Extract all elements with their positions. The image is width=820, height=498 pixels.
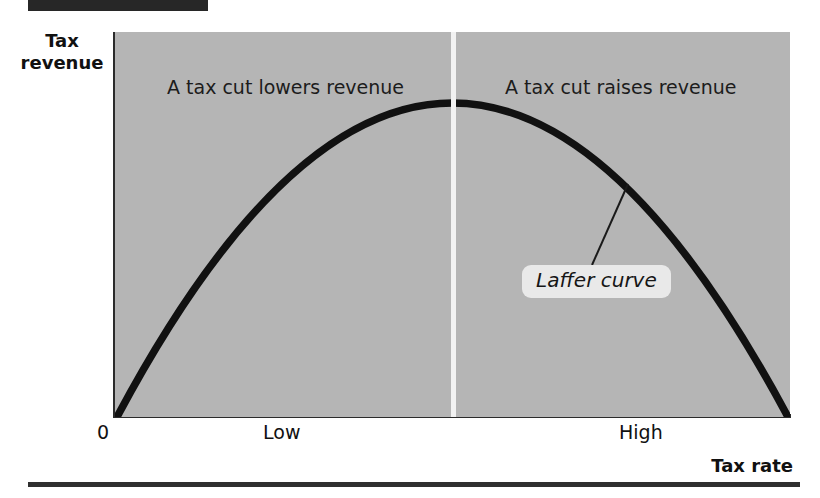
laffer-curve-label: Laffer curve xyxy=(522,265,671,298)
y-axis-title-line1: Tax xyxy=(18,30,106,52)
x-axis-title: Tax rate xyxy=(711,455,793,476)
bottom-rule xyxy=(28,482,800,487)
x-tick-label-0: 0 xyxy=(97,421,109,443)
callout-leader-line xyxy=(592,184,628,265)
figure-tab-bar xyxy=(28,0,208,11)
y-axis-title: Tax revenue xyxy=(18,30,106,74)
right-region-caption: A tax cut raises revenue xyxy=(505,76,736,98)
left-region-caption: A tax cut lowers revenue xyxy=(167,76,404,98)
laffer-curve-figure: Tax revenue A tax cut lowers revenue A t… xyxy=(0,0,820,498)
x-tick-label-low: Low xyxy=(263,421,300,443)
x-tick-label-high: High xyxy=(619,421,663,443)
mid-divider-line xyxy=(451,32,456,417)
plot-area: A tax cut lowers revenue A tax cut raise… xyxy=(115,32,790,417)
y-axis-title-line2: revenue xyxy=(18,52,106,74)
